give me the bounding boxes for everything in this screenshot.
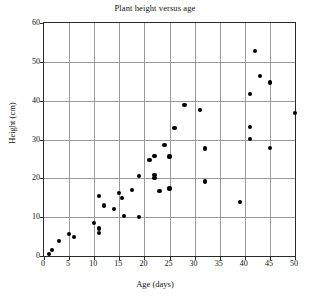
x-axis-tick-label: 20	[139, 259, 147, 268]
gridline-horizontal	[44, 101, 295, 102]
y-axis-tick	[40, 62, 44, 63]
data-point	[258, 74, 262, 78]
y-axis-tick-label: 60	[18, 18, 40, 27]
x-axis-tick-label: 45	[265, 259, 273, 268]
data-point	[137, 215, 141, 219]
y-axis-tick	[40, 23, 44, 24]
data-point	[268, 146, 272, 150]
gridline-horizontal	[44, 178, 295, 179]
data-point	[117, 191, 121, 195]
data-point	[50, 248, 54, 252]
data-point	[47, 252, 51, 256]
data-point	[57, 239, 61, 243]
scatter-plot-figure: Plant height versus age Age (days) Heigh…	[0, 0, 310, 299]
y-axis-tick	[40, 178, 44, 179]
y-axis-title: Height (cm)	[7, 78, 17, 168]
y-axis-tick-label: 50	[18, 56, 40, 65]
chart-title: Plant height versus age	[0, 3, 310, 13]
x-axis-tick-label: 30	[190, 259, 198, 268]
y-axis-tick-label: 20	[18, 173, 40, 182]
data-point	[253, 49, 257, 53]
data-point	[120, 196, 124, 200]
data-point	[147, 158, 151, 162]
x-axis-tick-label: 10	[89, 259, 97, 268]
data-point	[67, 232, 71, 236]
data-point	[162, 143, 166, 147]
data-point	[97, 194, 101, 198]
y-axis-tick	[40, 256, 44, 257]
data-point	[293, 111, 297, 115]
data-point	[152, 176, 156, 180]
gridline-horizontal	[44, 62, 295, 63]
x-axis-tick-label: 50	[290, 259, 298, 268]
data-point	[268, 80, 272, 84]
y-axis-tick-label: 0	[18, 251, 40, 260]
data-point	[248, 137, 252, 141]
data-point	[137, 174, 141, 178]
data-point	[157, 189, 161, 193]
plot-area	[43, 22, 296, 257]
gridline-horizontal	[44, 217, 295, 218]
y-axis-tick-label: 30	[18, 134, 40, 143]
data-point	[130, 188, 134, 192]
data-point	[182, 103, 186, 107]
data-point	[102, 203, 106, 207]
data-point	[97, 226, 101, 230]
data-point	[198, 108, 202, 112]
data-point	[172, 126, 176, 130]
data-point	[112, 207, 116, 211]
y-axis-tick	[40, 140, 44, 141]
data-point	[167, 186, 171, 190]
data-point	[248, 125, 252, 129]
x-axis-title: Age (days)	[0, 279, 310, 289]
y-axis-tick	[40, 217, 44, 218]
x-axis-tick-label: 5	[66, 259, 70, 268]
data-point	[152, 154, 156, 158]
data-point	[72, 235, 76, 239]
data-point	[248, 92, 252, 96]
data-point	[97, 231, 101, 235]
x-axis-tick-label: 35	[215, 259, 223, 268]
x-axis-tick-label: 40	[240, 259, 248, 268]
data-point	[238, 200, 242, 204]
y-axis-tick	[40, 101, 44, 102]
x-axis-tick-label: 25	[165, 259, 173, 268]
x-axis-tick-label: 0	[41, 259, 45, 268]
x-axis-tick-label: 15	[114, 259, 122, 268]
data-point	[92, 221, 96, 225]
y-axis-tick-label: 40	[18, 95, 40, 104]
gridline-horizontal	[44, 140, 295, 141]
data-point	[203, 179, 207, 183]
data-point	[167, 154, 171, 158]
data-point	[203, 146, 207, 150]
y-axis-tick-label: 10	[18, 212, 40, 221]
